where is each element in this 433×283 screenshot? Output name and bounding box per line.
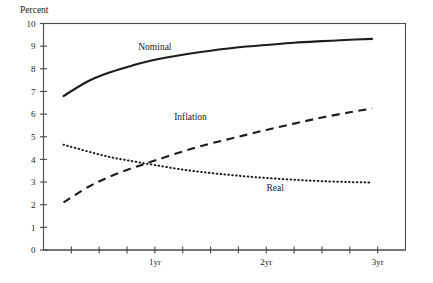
y-tick-label: 7 bbox=[31, 87, 36, 97]
chart-canvas: 012345678910 1yr2yr3yr NominalInflationR… bbox=[0, 0, 433, 283]
x-axis: 1yr2yr3yr bbox=[44, 247, 406, 268]
series-labels: NominalInflationReal bbox=[138, 42, 284, 193]
y-tick-label: 8 bbox=[31, 64, 36, 74]
series-lines bbox=[64, 39, 373, 203]
y-tick-label: 9 bbox=[31, 41, 36, 51]
y-tick-label: 0 bbox=[31, 245, 36, 255]
y-tick-label: 4 bbox=[31, 155, 36, 165]
x-tick-label: 2yr bbox=[260, 257, 272, 267]
y-tick-label: 1 bbox=[31, 223, 36, 233]
y-tick-label: 3 bbox=[31, 177, 36, 187]
series-line-inflation bbox=[64, 108, 373, 202]
y-axis-title: Percent bbox=[20, 5, 49, 15]
y-tick-label: 5 bbox=[31, 132, 36, 142]
y-axis: 012345678910 bbox=[27, 19, 48, 256]
series-label-inflation: Inflation bbox=[174, 112, 207, 122]
economic-rates-chart: 012345678910 1yr2yr3yr NominalInflationR… bbox=[0, 0, 433, 283]
y-tick-label: 6 bbox=[31, 109, 36, 119]
y-tick-label: 10 bbox=[27, 19, 37, 29]
series-label-nominal: Nominal bbox=[138, 42, 172, 52]
series-label-real: Real bbox=[266, 183, 284, 193]
y-tick-label: 2 bbox=[31, 200, 36, 210]
x-tick-label: 1yr bbox=[149, 257, 161, 267]
series-line-real bbox=[64, 145, 373, 183]
x-tick-label: 3yr bbox=[372, 257, 384, 267]
plot-frame bbox=[44, 24, 406, 251]
series-line-nominal bbox=[64, 39, 373, 96]
